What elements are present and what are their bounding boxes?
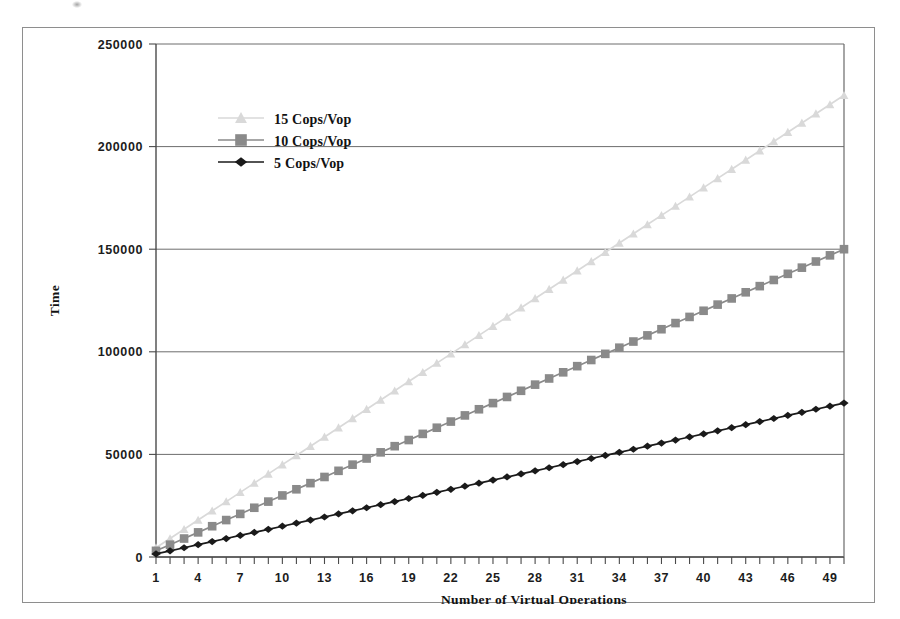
data-point-marker bbox=[278, 523, 287, 530]
x-axis-title: Number of Virtual Operations bbox=[441, 592, 627, 604]
data-point-marker bbox=[446, 486, 455, 493]
data-point-marker bbox=[643, 220, 652, 228]
data-point-marker bbox=[320, 473, 329, 482]
data-point-marker bbox=[334, 510, 343, 517]
x-tick-label: 16 bbox=[359, 571, 374, 585]
data-point-marker bbox=[755, 418, 764, 425]
data-point-marker bbox=[713, 300, 722, 309]
series-1 bbox=[152, 91, 849, 552]
data-point-marker bbox=[208, 522, 217, 531]
data-point-marker bbox=[320, 433, 329, 441]
data-point-marker bbox=[545, 285, 554, 293]
data-point-marker bbox=[587, 356, 596, 365]
data-point-marker bbox=[334, 423, 343, 431]
data-point-marker bbox=[573, 362, 582, 371]
data-point-marker bbox=[180, 525, 189, 533]
x-tick-label: 49 bbox=[822, 571, 837, 585]
data-point-marker bbox=[208, 506, 217, 514]
data-point-marker bbox=[475, 405, 484, 414]
data-point-marker bbox=[685, 313, 694, 322]
data-point-marker bbox=[432, 489, 441, 496]
data-point-marker bbox=[545, 374, 554, 383]
data-point-marker bbox=[573, 266, 582, 274]
data-point-marker bbox=[615, 239, 624, 247]
data-point-marker bbox=[264, 497, 273, 506]
data-point-marker bbox=[657, 325, 666, 334]
data-point-marker bbox=[362, 504, 371, 511]
data-point-marker bbox=[741, 288, 750, 297]
x-tick-label: 10 bbox=[275, 571, 290, 585]
data-point-marker bbox=[587, 257, 596, 265]
data-point-marker bbox=[194, 528, 203, 537]
data-point-marker bbox=[713, 427, 722, 434]
data-point-marker bbox=[727, 294, 736, 303]
data-point-marker bbox=[573, 458, 582, 465]
data-point-marker bbox=[502, 473, 511, 480]
data-point-marker bbox=[292, 451, 301, 459]
data-point-marker bbox=[404, 377, 413, 385]
data-point-marker bbox=[699, 430, 708, 437]
data-point-marker bbox=[222, 535, 231, 542]
data-point-marker bbox=[306, 479, 315, 488]
series-3 bbox=[151, 400, 848, 558]
data-point-marker bbox=[797, 409, 806, 416]
data-point-marker bbox=[306, 442, 315, 450]
data-point-marker bbox=[488, 476, 497, 483]
data-point-marker bbox=[460, 483, 469, 490]
x-tick-label: 28 bbox=[528, 571, 543, 585]
x-tick-label: 13 bbox=[317, 571, 332, 585]
data-point-marker bbox=[418, 368, 427, 376]
scan-artifact-speck bbox=[72, 1, 82, 8]
data-point-marker bbox=[474, 480, 483, 487]
x-tick-label: 40 bbox=[696, 571, 711, 585]
data-point-marker bbox=[755, 282, 764, 291]
data-point-marker bbox=[264, 469, 273, 477]
data-point-marker bbox=[278, 491, 287, 500]
series-line bbox=[156, 403, 844, 554]
legend-label: 15 Cops/Vop bbox=[274, 112, 352, 127]
data-point-marker bbox=[292, 520, 301, 527]
data-point-marker bbox=[741, 421, 750, 428]
data-point-marker bbox=[825, 403, 834, 410]
data-point-marker bbox=[264, 526, 273, 533]
y-tick-label: 100000 bbox=[98, 345, 143, 359]
data-point-marker bbox=[404, 495, 413, 502]
data-point-marker bbox=[250, 529, 259, 536]
data-point-marker bbox=[783, 128, 792, 136]
data-point-marker bbox=[685, 192, 694, 200]
data-point-marker bbox=[194, 516, 203, 524]
data-point-marker bbox=[320, 513, 329, 520]
data-point-marker bbox=[461, 411, 470, 420]
data-point-marker bbox=[727, 165, 736, 173]
data-point-marker bbox=[699, 306, 708, 315]
data-point-marker bbox=[545, 464, 554, 471]
data-point-marker bbox=[727, 424, 736, 431]
data-point-marker bbox=[798, 263, 807, 272]
data-point-marker bbox=[755, 146, 764, 154]
data-point-marker bbox=[559, 368, 568, 377]
data-point-marker bbox=[278, 460, 287, 468]
data-point-marker bbox=[629, 229, 638, 237]
data-point-marker bbox=[362, 454, 371, 463]
data-point-marker bbox=[503, 393, 512, 402]
data-point-marker bbox=[348, 460, 357, 469]
figure-frame: 0500001000001500002000002500001471013161… bbox=[22, 27, 875, 603]
data-point-marker bbox=[250, 503, 259, 512]
data-point-marker bbox=[839, 400, 848, 407]
series-2 bbox=[152, 245, 849, 555]
data-point-marker bbox=[348, 507, 357, 514]
series-line bbox=[156, 249, 844, 551]
data-point-marker bbox=[489, 322, 498, 330]
y-tick-label: 250000 bbox=[98, 38, 143, 52]
data-point-marker bbox=[671, 436, 680, 443]
data-point-marker bbox=[531, 294, 540, 302]
x-tick-label: 25 bbox=[485, 571, 500, 585]
x-tick-label: 37 bbox=[654, 571, 669, 585]
data-point-marker bbox=[447, 417, 456, 426]
data-point-marker bbox=[517, 386, 526, 395]
data-point-marker bbox=[559, 461, 568, 468]
data-point-marker bbox=[601, 452, 610, 459]
data-point-marker bbox=[208, 538, 217, 545]
data-point-marker bbox=[390, 498, 399, 505]
data-point-marker bbox=[741, 156, 750, 164]
